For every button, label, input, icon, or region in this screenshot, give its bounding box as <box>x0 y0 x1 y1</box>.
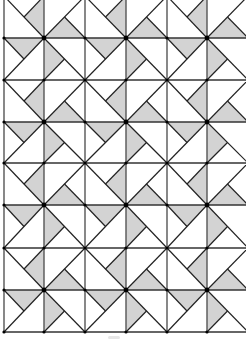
vertex-dot <box>2 330 5 333</box>
vertex-dot <box>205 330 208 333</box>
pinwheel-center-dot <box>124 36 129 41</box>
vertex-dot <box>165 330 168 333</box>
pinwheel-center-dot <box>124 288 129 293</box>
pinwheel-center-dot <box>42 36 47 41</box>
vertex-dot <box>124 246 127 249</box>
vertex-dot <box>165 78 168 81</box>
vertex-dot <box>83 78 86 81</box>
scan-smudge <box>108 336 120 339</box>
vertex-dot <box>42 161 45 164</box>
vertex-dot <box>83 161 86 164</box>
vertex-dot <box>165 288 168 291</box>
vertex-dot <box>42 330 45 333</box>
pinwheel-center-dot <box>124 120 129 125</box>
pinwheel-center-dot <box>42 203 47 208</box>
vertex-dot <box>83 330 86 333</box>
vertex-dot <box>2 120 5 123</box>
pinwheel-center-dot <box>205 288 210 293</box>
vertex-dot <box>205 161 208 164</box>
vertex-dot <box>205 78 208 81</box>
vertex-dot <box>83 203 86 206</box>
vertex-dot <box>165 36 168 39</box>
pinwheel-pattern <box>0 0 246 342</box>
vertex-dot <box>42 78 45 81</box>
vertex-dot <box>83 246 86 249</box>
vertex-dot <box>2 36 5 39</box>
pinwheel-center-dot <box>42 120 47 125</box>
vertex-dot <box>2 246 5 249</box>
vertex-dot <box>205 246 208 249</box>
vertex-dot <box>165 120 168 123</box>
pinwheel-center-dot <box>205 36 210 41</box>
vertex-dot <box>124 330 127 333</box>
pinwheel-center-dot <box>205 203 210 208</box>
vertex-dot <box>42 246 45 249</box>
vertex-dot <box>165 203 168 206</box>
vertex-dot <box>83 36 86 39</box>
vertex-dot <box>124 161 127 164</box>
vertex-dot <box>124 78 127 81</box>
vertex-dot <box>165 161 168 164</box>
vertex-dot <box>83 288 86 291</box>
pinwheel-center-dot <box>205 120 210 125</box>
vertex-dot <box>2 161 5 164</box>
vertex-dot <box>2 288 5 291</box>
vertex-dot <box>2 78 5 81</box>
vertex-dot <box>165 246 168 249</box>
vertex-dot <box>2 203 5 206</box>
pinwheel-center-dot <box>124 203 129 208</box>
pinwheel-center-dot <box>42 288 47 293</box>
vertex-dot <box>83 120 86 123</box>
